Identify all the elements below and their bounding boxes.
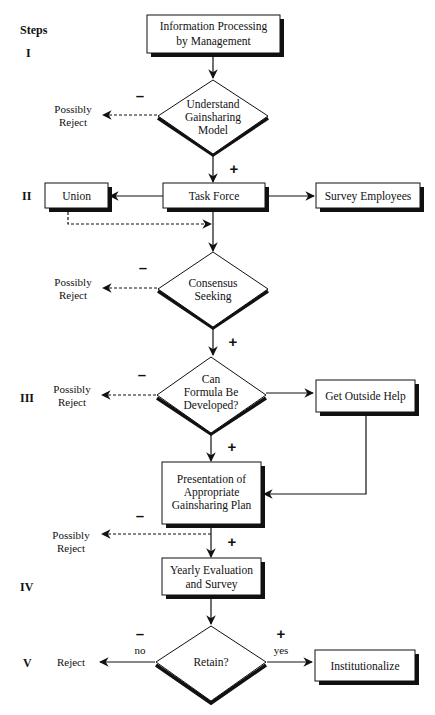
minus-sign: –	[136, 625, 144, 642]
svg-text:Union: Union	[62, 190, 91, 202]
step-label-v: V	[23, 656, 32, 670]
svg-text:Understand: Understand	[186, 98, 239, 110]
minus-sign: –	[136, 507, 144, 524]
minus-sign: –	[136, 87, 144, 104]
steps-header: Steps	[20, 23, 48, 37]
svg-text:Seeking: Seeking	[194, 290, 231, 303]
edge-label-no: no	[135, 644, 147, 656]
outcome-reject: Reject	[57, 656, 85, 668]
svg-text:Consensus: Consensus	[188, 277, 238, 289]
svg-text:Reject: Reject	[59, 116, 87, 128]
possibly-reject-4: Possibly	[52, 529, 90, 541]
svg-text:Reject: Reject	[59, 289, 87, 301]
gainsharing-flowchart: Steps I II III IV V Information Processi…	[0, 0, 435, 715]
svg-text:Reject: Reject	[57, 542, 85, 554]
plus-sign: +	[277, 625, 286, 642]
plus-sign: +	[229, 333, 238, 350]
possibly-reject-1: Possibly	[54, 103, 92, 115]
decision-understand-model: Understand Gainsharing Model	[158, 80, 268, 155]
node-info-processing: Information Processing by Management	[147, 15, 284, 57]
arrow-union-feedback	[68, 212, 211, 224]
possibly-reject-3: Possibly	[53, 383, 91, 395]
svg-text:Information Processing: Information Processing	[160, 20, 268, 33]
node-survey-employees: Survey Employees	[316, 183, 424, 212]
node-institutionalize: Institutionalize	[315, 650, 419, 685]
node-yearly-evaluation: Yearly Evaluation and Survey	[162, 558, 265, 599]
node-union: Union	[45, 183, 112, 212]
svg-text:Retain?: Retain?	[193, 656, 228, 668]
svg-text:Formula Be: Formula Be	[184, 386, 239, 398]
svg-text:Presentation of: Presentation of	[177, 473, 246, 485]
svg-text:Developed?: Developed?	[184, 399, 239, 412]
node-get-outside-help: Get Outside Help	[316, 380, 419, 416]
svg-text:Get Outside Help: Get Outside Help	[325, 390, 406, 403]
svg-text:Task Force: Task Force	[189, 190, 240, 202]
step-label-iii: III	[20, 391, 34, 405]
plus-sign: +	[228, 438, 237, 455]
svg-text:by Management: by Management	[176, 35, 251, 48]
node-task-force: Task Force	[163, 183, 269, 212]
svg-text:Model: Model	[198, 124, 228, 136]
step-label-iv: IV	[20, 580, 34, 594]
svg-text:and Survey: and Survey	[185, 578, 237, 591]
svg-text:Gainsharing Plan: Gainsharing Plan	[172, 499, 252, 512]
edge-label-yes: yes	[274, 644, 289, 656]
step-label-i: I	[26, 46, 31, 60]
decision-formula-developed: Can Formula Be Developed?	[157, 357, 266, 434]
decision-consensus-seeking: Consensus Seeking	[158, 252, 268, 328]
arrow-outside-help-to-presentation	[264, 416, 366, 494]
decision-retain: Retain?	[156, 626, 266, 703]
svg-text:Appropriate: Appropriate	[184, 486, 240, 499]
svg-text:Can: Can	[202, 373, 221, 385]
minus-sign: –	[139, 259, 147, 276]
plus-sign: +	[228, 533, 237, 550]
node-presentation-plan: Presentation of Appropriate Gainsharing …	[162, 462, 265, 528]
svg-text:Yearly Evaluation: Yearly Evaluation	[170, 564, 253, 577]
minus-sign: –	[138, 366, 146, 383]
svg-text:Institutionalize: Institutionalize	[331, 660, 400, 672]
svg-text:Reject: Reject	[58, 396, 86, 408]
step-label-ii: II	[22, 189, 32, 203]
plus-sign: +	[230, 160, 239, 177]
svg-text:Survey Employees: Survey Employees	[325, 190, 412, 203]
possibly-reject-2: Possibly	[54, 276, 92, 288]
svg-text:Gainsharing: Gainsharing	[185, 111, 241, 124]
